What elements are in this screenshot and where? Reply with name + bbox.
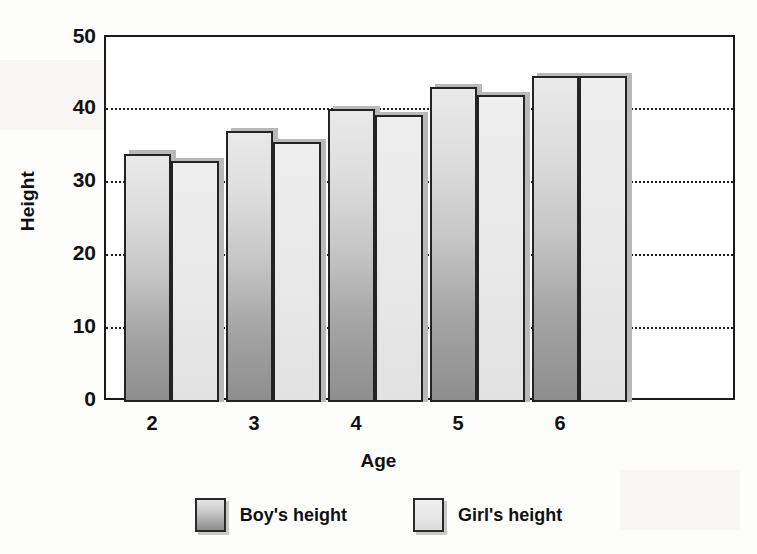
x-tick-label-5: 5 xyxy=(428,412,488,435)
y-tick-label-20: 20 xyxy=(50,242,96,263)
bar-boy-age-6 xyxy=(532,76,579,402)
bar-boy-age-4 xyxy=(328,109,375,402)
y-tick-label-0: 0 xyxy=(50,388,96,409)
bar-boy-age-3 xyxy=(226,131,273,402)
legend-item-boys-height: Boy's height xyxy=(195,498,347,532)
chart-figure: 50 40 30 20 10 0 Height xyxy=(0,0,757,554)
gridline-40 xyxy=(106,108,733,110)
legend-label-boys-height: Boy's height xyxy=(240,505,347,526)
legend-label-girls-height: Girl's height xyxy=(458,505,562,526)
legend: Boy's height Girl's height xyxy=(0,498,757,532)
legend-swatch-icon-boy xyxy=(195,498,226,532)
x-tick-label-2: 2 xyxy=(122,412,182,435)
legend-item-girls-height: Girl's height xyxy=(413,498,562,532)
y-tick-label-50: 50 xyxy=(50,25,96,46)
plot-area xyxy=(104,35,735,400)
x-tick-label-4: 4 xyxy=(326,412,386,435)
y-tick-label-40: 40 xyxy=(50,96,96,117)
bar-girl-age-3 xyxy=(273,142,321,402)
bar-boy-age-2 xyxy=(124,154,171,402)
bar-girl-age-5 xyxy=(477,95,525,402)
y-tick-label-10: 10 xyxy=(50,315,96,336)
y-axis-title: Height xyxy=(17,151,39,251)
x-axis-title: Age xyxy=(0,450,757,472)
x-tick-label-3: 3 xyxy=(224,412,284,435)
bar-boy-age-5 xyxy=(430,87,477,402)
bar-girl-age-4 xyxy=(375,115,423,402)
bar-girl-age-6 xyxy=(579,76,627,402)
legend-swatch-icon-girl xyxy=(413,498,444,532)
bar-girl-age-2 xyxy=(171,161,219,402)
x-tick-label-6: 6 xyxy=(530,412,590,435)
y-tick-label-30: 30 xyxy=(50,169,96,190)
